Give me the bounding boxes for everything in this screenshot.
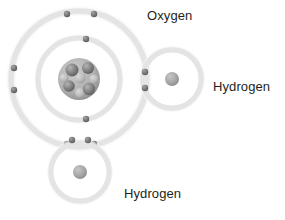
hydrogen-right-label: Hydrogen (213, 79, 270, 94)
nucleon-particle (82, 62, 94, 74)
hydrogen-bottom-label: Hydrogen (124, 186, 181, 201)
water-molecule-diagram: Oxygen Hydrogen Hydrogen (0, 0, 285, 220)
electron (69, 137, 75, 143)
electron (142, 85, 148, 91)
hydrogen-bottom-atom (46, 138, 114, 206)
electron (83, 36, 89, 42)
nucleon-particle (89, 74, 98, 83)
oxygen-nucleus (58, 58, 100, 100)
nucleon-particle (83, 83, 95, 95)
electron (85, 137, 91, 143)
oxygen-atom (5, 5, 153, 153)
hydrogen-right-nucleus (165, 72, 179, 86)
hydrogen-bottom-nucleus (73, 165, 87, 179)
nucleon-particle (66, 64, 79, 77)
electron (142, 69, 148, 75)
hydrogen-right-atom (138, 45, 206, 113)
electron (11, 87, 17, 93)
electron (91, 11, 97, 17)
oxygen-label: Oxygen (147, 8, 192, 23)
electron (11, 65, 17, 71)
electron (83, 116, 89, 122)
nucleon-particle (63, 80, 75, 92)
electron (64, 11, 70, 17)
